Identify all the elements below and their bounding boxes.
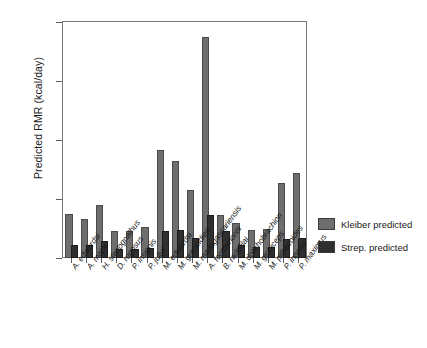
legend-item-kleiber: Kleiber predicted [318,218,424,230]
bar-group [185,22,200,258]
legend-item-strep: Strep. predicted [318,241,424,253]
y-tick-mark [56,199,62,200]
y-tick-mark [56,22,62,23]
y-tick-mark [56,81,62,82]
legend-label-kleiber: Kleiber predicted [341,219,412,230]
bar-group [78,22,93,258]
bar-group [200,22,215,258]
chart-legend: Kleiber predicted Strep. predicted [318,218,424,264]
legend-swatch-icon [318,241,335,253]
legend-label-strep: Strep. predicted [341,242,408,253]
y-tick-mark [56,258,62,259]
bar-group [154,22,169,258]
bar-group [291,22,306,258]
y-tick-mark [56,140,62,141]
bar-group [169,22,184,258]
y-axis-title: Predicted RMR (kcal/day) [32,18,44,218]
bar-group [63,22,78,258]
bar-group [93,22,108,258]
bar-group [245,22,260,258]
legend-swatch-icon [318,218,335,230]
bar-group [109,22,124,258]
chart-figure: Predicted RMR (kcal/day) 010002000300040… [0,0,427,348]
